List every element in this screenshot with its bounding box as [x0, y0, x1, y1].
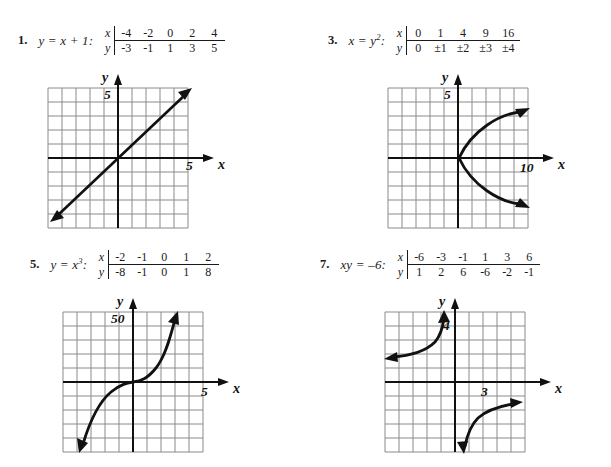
- y-axis-arrow: [454, 74, 462, 85]
- row-label-y: y: [392, 41, 407, 56]
- cell-y-4: ±4: [497, 41, 520, 56]
- x-axis-arrow: [540, 378, 551, 386]
- y-axis-arrow: [114, 74, 122, 85]
- y-axis-arrow: [129, 298, 137, 309]
- problem-7-number: 7.: [320, 257, 329, 272]
- y-tick-label: 5: [104, 87, 111, 103]
- problem-1-header: 1. y = x + 1: x -4 -2 0 2 4 y -3 -1 1 3 …: [18, 26, 225, 55]
- cell-y-3: -6: [474, 265, 496, 280]
- row-label-y: y: [393, 265, 408, 280]
- cell-x-0: 0: [407, 26, 430, 41]
- table-row: y 1 2 6 -6 -2 -1: [393, 265, 540, 280]
- cell-y-1: -1: [131, 265, 153, 280]
- plotted-curve: [50, 88, 192, 222]
- cell-y-1: 2: [430, 265, 452, 280]
- y-axis-arrow: [451, 298, 459, 309]
- cell-y-2: ±2: [452, 41, 475, 56]
- cell-x-3: 9: [474, 26, 497, 41]
- cell-y-2: 6: [452, 265, 474, 280]
- problem-5-header: 5. y = x3: x -2 -1 0 1 2 y -8 -1 0 1 8: [30, 250, 219, 279]
- cell-y-4: 5: [203, 41, 225, 56]
- cell-x-1: 1: [429, 26, 452, 41]
- cell-x-4: 4: [203, 26, 225, 41]
- axes: [48, 74, 214, 228]
- cell-x-3: 2: [181, 26, 203, 41]
- problem-5-equation: y = x3:: [50, 257, 87, 273]
- problem-7-equation: xy = –6:: [340, 257, 386, 273]
- cell-x-4: 3: [496, 250, 518, 265]
- y-axis-label: y: [117, 294, 123, 310]
- axes: [385, 298, 551, 452]
- y-tick-label: 50: [111, 311, 125, 327]
- sideways-parabola-graph-svg: [380, 72, 595, 232]
- problem-3-number: 3.: [328, 33, 337, 48]
- problem-3-value-table: x 0 1 4 9 16 y 0 ±1 ±2 ±3 ±4: [392, 26, 519, 55]
- cell-y-2: 1: [159, 41, 181, 56]
- cell-y-0: -3: [115, 41, 138, 56]
- axes: [388, 74, 554, 228]
- cell-x-0: -6: [408, 250, 431, 265]
- x-axis-label: x: [555, 381, 562, 397]
- problem-3-graph: y 5 x 10: [380, 72, 595, 232]
- problem-3-header: 3. x = y2: x 0 1 4 9 16 y 0 ±1 ±2 ±3 ±4: [328, 26, 520, 55]
- x-axis-arrow: [203, 154, 214, 162]
- table-row: x -6 -3 -1 1 3 6: [393, 250, 540, 265]
- cell-x-2: 0: [153, 250, 175, 265]
- hyperbola-graph-svg: [377, 296, 592, 461]
- cell-x-0: -4: [115, 26, 138, 41]
- problem-5-graph: y 50 x 5: [55, 296, 270, 461]
- cell-y-3: ±3: [474, 41, 497, 56]
- cubic-graph-svg: [55, 296, 270, 461]
- cell-y-5: -1: [518, 265, 540, 280]
- cell-x-3: 1: [175, 250, 197, 265]
- x-tick-label: 5: [201, 384, 208, 400]
- cell-x-2: -1: [452, 250, 474, 265]
- cell-x-3: 1: [474, 250, 496, 265]
- cell-y-4: 8: [197, 265, 219, 280]
- table-row: y -3 -1 1 3 5: [100, 41, 225, 56]
- problem-7-value-table: x -6 -3 -1 1 3 6 y 1 2 6 -6 -2 -1: [393, 250, 540, 279]
- curve-arrow-q4-right: [510, 398, 523, 408]
- cell-x-1: -3: [430, 250, 452, 265]
- y-axis-label: y: [439, 294, 445, 310]
- table-row: x -4 -2 0 2 4: [100, 26, 225, 41]
- row-label-x: x: [94, 250, 109, 265]
- cell-x-4: 2: [197, 250, 219, 265]
- hyperbola-branch-q2: [392, 318, 444, 357]
- x-axis-label: x: [218, 157, 225, 173]
- x-tick-label: 5: [186, 158, 193, 174]
- curve-arrow-upper-right: [168, 311, 179, 325]
- cell-y-1: -1: [137, 41, 159, 56]
- cell-y-0: 0: [407, 41, 430, 56]
- problem-1-equation: y = x + 1:: [38, 33, 93, 49]
- x-tick-label: 3: [481, 384, 488, 400]
- cell-x-0: -2: [109, 250, 132, 265]
- row-label-y: y: [94, 265, 109, 280]
- cell-x-1: -1: [131, 250, 153, 265]
- cell-x-4: 16: [497, 26, 520, 41]
- cell-y-0: 1: [408, 265, 431, 280]
- x-axis-arrow: [218, 378, 229, 386]
- y-axis-label: y: [102, 70, 108, 86]
- problem-7-graph: y 4 x 3: [377, 296, 592, 461]
- problem-5-value-table: x -2 -1 0 1 2 y -8 -1 0 1 8: [94, 250, 219, 279]
- row-label-x: x: [393, 250, 408, 265]
- y-tick-label: 5: [444, 87, 451, 103]
- cell-y-3: 1: [175, 265, 197, 280]
- x-axis-label: x: [233, 381, 240, 397]
- problem-1-graph: y 5 x 5: [40, 72, 255, 232]
- cell-x-2: 0: [159, 26, 181, 41]
- curve-arrow-lower-left: [77, 438, 88, 453]
- row-label-y: y: [100, 41, 115, 56]
- problem-1-number: 1.: [18, 33, 27, 48]
- row-label-x: x: [392, 26, 407, 41]
- problem-3-equation: x = y2:: [348, 33, 385, 49]
- x-axis-label: x: [558, 157, 565, 173]
- problem-1-value-table: x -4 -2 0 2 4 y -3 -1 1 3 5: [100, 26, 225, 55]
- problem-7-header: 7. xy = –6: x -6 -3 -1 1 3 6 y 1 2 6 -6 …: [320, 250, 540, 279]
- row-label-x: x: [100, 26, 115, 41]
- cell-x-2: 4: [452, 26, 475, 41]
- table-row: y 0 ±1 ±2 ±3 ±4: [392, 41, 519, 56]
- problem-5-number: 5.: [30, 257, 39, 272]
- table-row: x 0 1 4 9 16: [392, 26, 519, 41]
